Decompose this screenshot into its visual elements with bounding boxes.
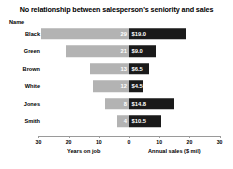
axis-tick-label: 10	[96, 139, 102, 146]
axis-tick-mark	[69, 136, 70, 138]
axis-tick-label: 30	[217, 139, 223, 146]
bar-value-years-smith: 4	[124, 118, 127, 125]
bar-value-sales-brown: $6.5	[132, 65, 143, 72]
chart-row: Black29$19.0	[0, 25, 233, 43]
bar-years-smith: 4	[117, 116, 129, 128]
chart-title: No relationship between salesperson's se…	[0, 5, 233, 14]
bar-years-black: 29	[41, 28, 129, 40]
bar-value-years-brown: 13	[121, 65, 127, 72]
chart-row: Smith4$10.5	[0, 113, 233, 131]
chart-row: Jones8$14.8	[0, 95, 233, 113]
bar-value-years-black: 29	[121, 30, 127, 37]
chart-row: Brown13$6.5	[0, 60, 233, 78]
bar-years-brown: 13	[90, 63, 129, 75]
bar-sales-jones: $14.8	[129, 98, 174, 110]
row-label-brown: Brown	[23, 65, 40, 72]
row-label-white: White	[25, 83, 40, 90]
axis-tick-mark	[220, 136, 221, 138]
bar-sales-green: $9.0	[129, 46, 156, 58]
row-label-jones: Jones	[24, 100, 40, 107]
axis-tick-label: 20	[66, 139, 72, 146]
axis-tick-label: 30	[36, 139, 42, 146]
plot-area: Black29$19.0Green21$9.0Brown13$6.5White1…	[0, 24, 233, 134]
axis-tick-mark	[129, 136, 130, 138]
chart-container: No relationship between salesperson's se…	[0, 0, 233, 169]
bar-value-years-green: 21	[121, 48, 127, 55]
axis-tick-mark	[189, 136, 190, 138]
chart-row: White12$4.5	[0, 78, 233, 96]
axis-tick-label: 10	[156, 139, 162, 146]
bar-sales-brown: $6.5	[129, 63, 149, 75]
axis-tick-mark	[99, 136, 100, 138]
axis-tick-mark	[38, 136, 39, 138]
bar-value-sales-black: $19.0	[132, 30, 147, 37]
bar-sales-black: $19.0	[129, 28, 186, 40]
bar-years-jones: 8	[105, 98, 129, 110]
bar-sales-white: $4.5	[129, 81, 143, 93]
chart-row: Green21$9.0	[0, 43, 233, 61]
axis-label-years-on-job: Years on job	[67, 148, 100, 155]
row-label-black: Black	[25, 30, 40, 37]
bar-value-years-jones: 8	[124, 100, 127, 107]
axis-tick-label: 20	[187, 139, 193, 146]
bar-value-sales-smith: $10.5	[132, 118, 147, 125]
bar-years-white: 12	[93, 81, 129, 93]
row-label-green: Green	[24, 48, 40, 55]
axis-tick-label: 0	[128, 139, 131, 146]
bar-value-sales-green: $9.0	[132, 48, 143, 55]
axis-label-annual-sales: Annual sales ($ mil)	[148, 148, 201, 155]
bar-value-sales-jones: $14.8	[132, 100, 147, 107]
row-label-smith: Smith	[24, 118, 40, 125]
bar-value-years-white: 12	[121, 83, 127, 90]
bar-value-sales-white: $4.5	[132, 83, 143, 90]
axis-tick-mark	[159, 136, 160, 138]
bar-sales-smith: $10.5	[129, 116, 161, 128]
bar-years-green: 21	[66, 46, 129, 58]
